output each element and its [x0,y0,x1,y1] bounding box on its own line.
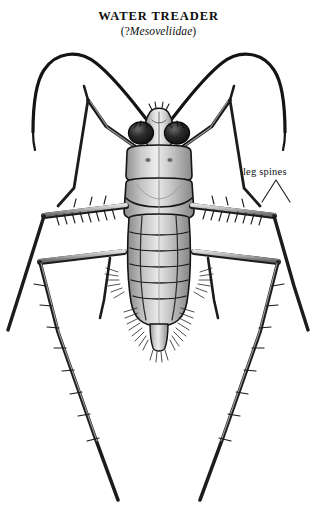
antenna-right [166,54,285,132]
compound-eye-left [129,121,154,144]
front-tarsus-left [58,100,88,206]
water-treader-illustration: WATER TREADER (?Mesoveliidae) leg spines [0,0,317,527]
front-tarsus-right [230,100,260,206]
antenna-left [33,54,152,132]
hind-leg-left [40,251,124,500]
abdomen [128,214,191,326]
hind-leg-right [194,251,278,500]
leg-spines-label: leg spines [243,166,287,177]
middle-tarsus-left [100,258,110,318]
compound-eye-right [165,121,190,144]
leg-spines-pointer [262,180,290,202]
abdomen-tip [150,324,168,351]
insect-line-drawing [0,0,317,527]
middle-tarsus-right [208,258,218,318]
